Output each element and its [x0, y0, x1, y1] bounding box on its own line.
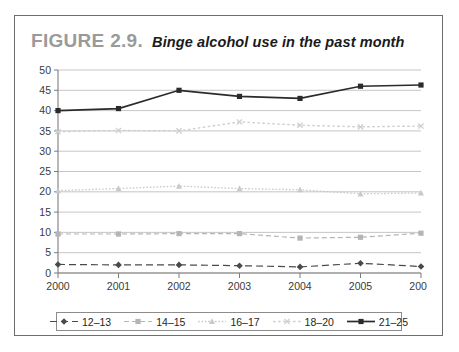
chart-plot-area: 0510152025303540455020002001200220032004…	[31, 64, 427, 299]
series-line	[58, 122, 421, 132]
legend-item-16-17[interactable]: 16–17	[198, 316, 259, 328]
y-tick-label: 15	[39, 206, 51, 218]
data-point-marker	[297, 235, 302, 240]
chart-legend: 12–1314–1516–1718–2021–25	[56, 312, 402, 331]
y-tick-label: 45	[39, 84, 51, 96]
data-point-marker	[418, 82, 423, 87]
y-tick-label: 40	[39, 104, 51, 116]
data-point-marker	[176, 231, 181, 236]
legend-swatch-square-icon	[124, 316, 152, 327]
x-tick-label: 2006	[409, 280, 427, 292]
y-tick-label: 50	[39, 64, 51, 76]
data-point-marker	[236, 262, 243, 269]
data-point-marker	[358, 235, 363, 240]
legend-swatch-square-icon	[347, 316, 375, 327]
data-point-marker	[358, 84, 363, 89]
data-point-marker	[116, 231, 121, 236]
figure-number: FIGURE 2.9.	[31, 30, 143, 51]
chart-series-18-20	[55, 119, 423, 134]
legend-item-12-13[interactable]: 12–13	[50, 316, 111, 328]
legend-label: 12–13	[82, 316, 111, 328]
x-tick-label: 2001	[107, 280, 131, 292]
data-point-marker	[115, 262, 122, 269]
data-point-marker	[237, 94, 242, 99]
y-tick-label: 35	[39, 125, 51, 137]
legend-swatch-triangle-icon	[198, 316, 226, 327]
data-point-marker	[55, 187, 61, 193]
chart-series-21-25	[55, 82, 423, 113]
legend-label: 18–20	[305, 316, 334, 328]
x-tick-label: 2000	[46, 280, 70, 292]
figure-container: FIGURE 2.9.Binge alcohol use in the past…	[14, 15, 443, 336]
page-title: Binge alcohol use in the past month	[152, 34, 404, 50]
data-point-marker	[55, 231, 60, 236]
data-point-marker	[55, 261, 62, 268]
x-tick-label: 2002	[167, 280, 191, 292]
data-point-marker	[297, 96, 302, 101]
chart-series-16-17	[55, 183, 424, 197]
legend-label: 16–17	[230, 316, 259, 328]
data-point-marker	[55, 108, 60, 113]
data-point-marker	[209, 318, 215, 324]
y-tick-label: 5	[45, 246, 51, 258]
x-tick-label: 2003	[228, 280, 252, 292]
data-point-marker	[297, 187, 303, 193]
data-point-marker	[176, 88, 181, 93]
data-point-marker	[61, 318, 68, 325]
data-point-marker	[297, 264, 304, 271]
legend-swatch-diamond-icon	[50, 316, 78, 327]
legend-item-21-25[interactable]: 21–25	[347, 316, 408, 328]
data-point-marker	[116, 106, 121, 111]
y-tick-label: 0	[45, 267, 51, 279]
line-chart: 0510152025303540455020002001200220032004…	[31, 64, 427, 299]
chart-series-12-13	[55, 260, 425, 270]
data-point-marker	[358, 319, 363, 324]
y-tick-label: 30	[39, 145, 51, 157]
data-point-marker	[418, 231, 423, 236]
data-point-marker	[237, 231, 242, 236]
y-tick-label: 20	[39, 185, 51, 197]
data-point-marker	[418, 263, 425, 270]
y-tick-label: 10	[39, 226, 51, 238]
data-point-marker	[176, 262, 183, 269]
legend-label: 21–25	[379, 316, 408, 328]
x-tick-label: 2005	[349, 280, 373, 292]
data-point-marker	[136, 319, 141, 324]
y-tick-label: 25	[39, 165, 51, 177]
legend-swatch-x-icon	[273, 316, 301, 327]
figure-caption: FIGURE 2.9.Binge alcohol use in the past…	[31, 30, 405, 52]
legend-item-14-15[interactable]: 14–15	[124, 316, 185, 328]
legend-item-18-20[interactable]: 18–20	[273, 316, 334, 328]
data-point-marker	[357, 260, 364, 267]
x-tick-label: 2004	[288, 280, 312, 292]
legend-label: 14–15	[156, 316, 185, 328]
